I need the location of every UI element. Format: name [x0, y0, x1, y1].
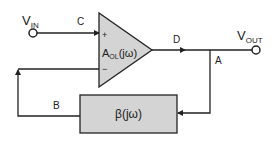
output-arrow-icon	[180, 47, 186, 53]
amplifier-gain-label: AOL(jω)	[102, 47, 137, 60]
feedback-wire-left	[18, 70, 80, 116]
plus-input-label: +	[102, 30, 107, 40]
minus-input-label: −	[102, 64, 107, 74]
vout-label: VOUT	[237, 28, 263, 45]
feedback-wire-right	[178, 50, 210, 113]
vout-terminal	[252, 46, 260, 54]
vin-label: VIN	[22, 13, 39, 30]
feedback-diagram: VIN C + − AOL(jω) VOUT D A β(jω) B	[0, 0, 280, 141]
feedback-block-label: β(jω)	[115, 107, 142, 121]
node-a-label: A	[215, 55, 222, 66]
node-b-label: B	[53, 100, 60, 111]
node-c-label: C	[77, 16, 84, 27]
vin-terminal	[29, 29, 37, 37]
node-d-label: D	[173, 34, 180, 45]
